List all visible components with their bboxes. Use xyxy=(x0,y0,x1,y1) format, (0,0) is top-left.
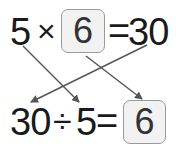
eq1-result: 30 xyxy=(128,13,168,51)
eq1-left: 5 xyxy=(10,13,30,51)
eq1-operator: × xyxy=(37,12,55,50)
arrow-5-to-5 xyxy=(23,46,79,102)
eq2-equals: = xyxy=(96,102,117,140)
eq2-left: 30 xyxy=(10,103,50,141)
eq1-answer-box: 6 xyxy=(61,9,105,53)
arrow-30-to-30 xyxy=(31,45,147,102)
eq2-answer-box: 6 xyxy=(123,100,166,144)
eq2-operator: ÷ xyxy=(53,102,71,140)
eq1-equals: = xyxy=(108,12,129,50)
arrow-6-to-6 xyxy=(86,56,142,99)
eq2-right: 5 xyxy=(76,103,96,141)
